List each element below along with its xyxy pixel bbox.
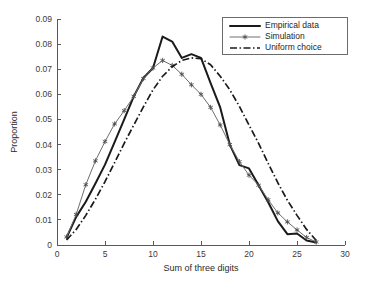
y-tick-label: 0.01 <box>35 215 52 225</box>
x-tick-label: 30 <box>340 249 350 259</box>
y-tick-label: 0.07 <box>35 64 52 74</box>
y-tick-label: 0.03 <box>35 165 52 175</box>
series-line-simulation <box>67 60 317 242</box>
legend-label-uniform: Uniform choice <box>265 42 322 52</box>
y-tick-label: 0.05 <box>35 114 52 124</box>
x-tick-label: 20 <box>244 249 254 259</box>
legend-label-simulation: Simulation <box>265 31 305 41</box>
series-layer <box>64 37 318 245</box>
y-axis-title: Proportion <box>9 111 19 153</box>
x-axis-title: Sum of three digits <box>163 263 239 273</box>
y-tick-label: 0 <box>47 240 52 250</box>
x-axis-ticks: 051015202530 <box>55 241 350 259</box>
y-tick-label: 0.06 <box>35 89 52 99</box>
simulation-marker <box>218 122 223 127</box>
y-tick-label: 0.02 <box>35 190 52 200</box>
y-tick-label: 0.08 <box>35 39 52 49</box>
y-tick-label: 0.09 <box>35 14 52 24</box>
figure-container: 00.010.020.030.040.050.060.070.080.09 05… <box>0 0 368 287</box>
x-tick-label: 15 <box>196 249 206 259</box>
simulation-marker <box>103 139 108 144</box>
chart-legend[interactable]: Empirical dataSimulationUniform choice <box>222 17 347 54</box>
y-tick-label: 0.04 <box>35 140 52 150</box>
chart-canvas: 00.010.020.030.040.050.060.070.080.09 05… <box>0 0 368 287</box>
x-tick-label: 5 <box>103 249 108 259</box>
x-tick-label: 10 <box>148 249 158 259</box>
simulation-marker <box>84 182 89 187</box>
x-tick-label: 0 <box>55 249 60 259</box>
legend-label-empirical: Empirical data <box>265 20 319 30</box>
x-tick-label: 25 <box>292 249 302 259</box>
series-line-empirical-data <box>67 37 317 243</box>
simulation-marker <box>93 158 98 163</box>
